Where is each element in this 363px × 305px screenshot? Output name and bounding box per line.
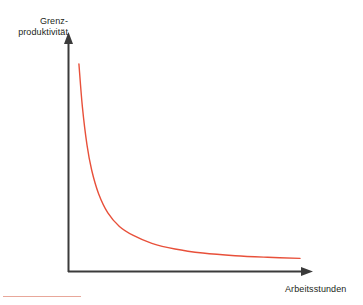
chart-figure: Grenz- produktivität Arbeitsstunden	[0, 0, 363, 305]
data-series-group	[79, 64, 300, 258]
y-axis-label: Grenz- produktivität	[8, 16, 68, 38]
y-axis-label-line1: Grenz-	[40, 16, 68, 26]
marginal-productivity-curve	[79, 64, 300, 258]
x-axis-arrowhead	[301, 267, 313, 276]
x-axis-label: Arbeitsstunden	[285, 284, 346, 295]
axes-group	[64, 32, 313, 276]
chart-canvas	[0, 0, 363, 305]
y-axis-label-line2: produktivität	[8, 27, 68, 38]
